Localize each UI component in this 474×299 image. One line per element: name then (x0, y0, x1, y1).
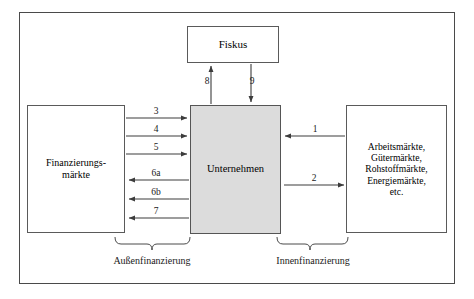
arrow-label-8: 8 (199, 76, 215, 86)
arrow-label-2: 2 (306, 173, 322, 183)
arrow-label-1: 1 (307, 124, 323, 134)
node-finanzierungsmaerkte: Finanzierungs- märkte (27, 105, 125, 233)
arrow-label-7: 7 (148, 206, 164, 216)
node-absatz-beschaffungsmaerkte: Arbeitsmärkte, Gütermärkte, Rohstoffmärk… (346, 105, 447, 233)
node-unternehmen-label: Unternehmen (191, 163, 280, 175)
node-unternehmen: Unternehmen (190, 105, 281, 234)
arrow-label-5: 5 (148, 142, 164, 152)
node-fiskus: Fiskus (187, 26, 279, 63)
node-fiskus-label: Fiskus (188, 38, 278, 51)
arrow-label-4: 4 (148, 124, 164, 134)
node-absatz-beschaffungsmaerkte-label: Arbeitsmärkte, Gütermärkte, Rohstoffmärk… (347, 141, 446, 198)
diagram-canvas: Fiskus Finanzierungs- märkte Unternehmen… (0, 0, 474, 299)
arrow-label-9: 9 (244, 76, 260, 86)
arrow-label-6a: 6a (147, 168, 165, 178)
group-label-innenfinanzierung: Innenfinanzierung (253, 255, 373, 266)
arrow-label-6b: 6b (147, 187, 165, 197)
arrow-label-3: 3 (148, 106, 164, 116)
group-label-aussenfinanzierung: Außenfinanzierung (92, 255, 212, 266)
node-finanzierungsmaerkte-label: Finanzierungs- märkte (28, 157, 124, 181)
